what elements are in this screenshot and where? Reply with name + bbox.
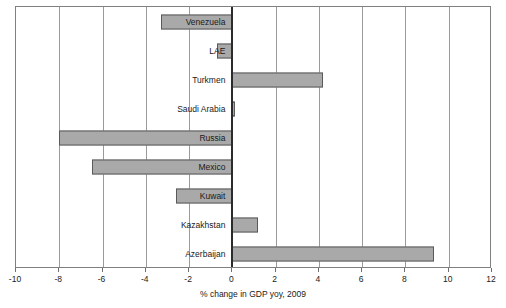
x-tick-label: -8 [54, 274, 62, 284]
bar [232, 247, 433, 262]
bar-row: Saudi Arabia [16, 94, 490, 123]
bar-category-label: Russia [199, 133, 227, 143]
bar [232, 72, 323, 87]
x-tick-label: 12 [486, 274, 495, 284]
bar-category-label: Turkmen [192, 75, 227, 85]
plot-area: VenezuelaLAETurkmenSaudi ArabiaRussiaMex… [15, 6, 491, 268]
x-tick-label: 0 [229, 274, 234, 284]
bar-category-label: Azerbaijan [185, 249, 227, 259]
bar-row: Kuwait [16, 182, 490, 211]
x-tick-label: -10 [9, 274, 21, 284]
x-tick-label: 6 [359, 274, 364, 284]
zero-line [231, 7, 233, 267]
bar-row: LAE [16, 36, 490, 65]
bar-category-label: Kuwait [200, 191, 228, 201]
x-axis-title: % change in GDP yoy, 2009 [0, 289, 506, 299]
x-tick-mark [491, 268, 492, 272]
bar [232, 218, 258, 233]
x-tick-label: 4 [316, 274, 321, 284]
x-tick-label: 2 [272, 274, 277, 284]
bar-category-label: Saudi Arabia [177, 104, 227, 114]
bar-category-label: LAE [209, 46, 227, 56]
x-tick-label: -4 [141, 274, 149, 284]
bar-category-label: Kazakhstan [181, 220, 227, 230]
bar-row: Mexico [16, 153, 490, 182]
gdp-change-bar-chart: VenezuelaLAETurkmenSaudi ArabiaRussiaMex… [0, 0, 506, 308]
bar-row: Turkmen [16, 65, 490, 94]
bar-row: Venezuela [16, 7, 490, 36]
bar-row: Russia [16, 123, 490, 152]
bar-row: Azerbaijan [16, 240, 490, 269]
x-tick-label: 8 [402, 274, 407, 284]
x-tick-label: -6 [98, 274, 106, 284]
bar-category-label: Venezuela [186, 17, 228, 27]
bar-category-label: Mexico [198, 162, 227, 172]
x-tick-label: -2 [184, 274, 192, 284]
x-tick-label: 10 [443, 274, 452, 284]
bar-row: Kazakhstan [16, 211, 490, 240]
